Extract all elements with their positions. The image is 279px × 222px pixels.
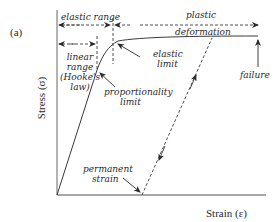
linear-label-3: (Hooke's (60, 73, 100, 82)
deformation-label: deformation (175, 28, 231, 37)
proportionality-limit-pointer (100, 73, 115, 87)
elastic-limit-label-1: elastic (153, 50, 183, 59)
proportionality-limit-label-1: proportionality (104, 88, 173, 97)
permanent-strain-label-1: permanent (83, 165, 133, 174)
panel-label: (a) (10, 27, 22, 38)
failure-label: failure (240, 71, 270, 80)
elastic-limit-label-2: limit (157, 60, 178, 69)
linear-label-2: range (62, 63, 98, 72)
x-axis-label: Strain (ε) (206, 208, 247, 219)
permanent-strain-label-2: strain (92, 175, 119, 184)
elastic-limit-pointer (118, 44, 140, 57)
y-axis-label: Stress (σ) (36, 77, 47, 119)
linear-label-4: law) (62, 83, 98, 92)
linear-label-1: linear (62, 53, 98, 62)
permanent-strain-pointer (123, 178, 140, 192)
plastic-label: plastic (186, 11, 216, 20)
unload-arrow (159, 146, 165, 160)
proportionality-limit-label-2: limit (120, 98, 141, 107)
reload-arrow (190, 75, 196, 89)
elastic-range-label: elastic range (61, 13, 120, 22)
